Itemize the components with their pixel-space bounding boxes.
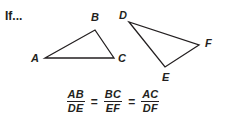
fraction-denominator: DE [67, 102, 85, 114]
fraction-numerator: BC [104, 89, 122, 101]
fraction-numerator: AB [67, 89, 85, 101]
vertex-label-f: F [205, 38, 212, 49]
vertex-label-c: C [118, 53, 126, 64]
vertex-label-a: A [31, 53, 39, 64]
fraction-denominator: DF [142, 102, 159, 114]
figure-page: If... A B C D E F AB DE = BC EF = AC D [0, 0, 226, 124]
vertex-label-b: B [91, 12, 99, 23]
triangle-ABC-shape [45, 30, 114, 58]
fraction-ac-df: AC DF [141, 89, 159, 114]
fraction-numerator: AC [141, 89, 159, 101]
triangle-DEF-shape [129, 22, 199, 67]
equals-sign-2: = [127, 96, 136, 108]
fraction-bc-ef: BC EF [104, 89, 122, 114]
fraction-denominator: EF [105, 102, 121, 114]
fraction-ab-de: AB DE [67, 89, 85, 114]
vertex-label-d: D [119, 10, 127, 21]
equals-sign-1: = [90, 96, 99, 108]
proportion-equation: AB DE = BC EF = AC DF [0, 89, 226, 114]
vertex-label-e: E [162, 72, 169, 83]
